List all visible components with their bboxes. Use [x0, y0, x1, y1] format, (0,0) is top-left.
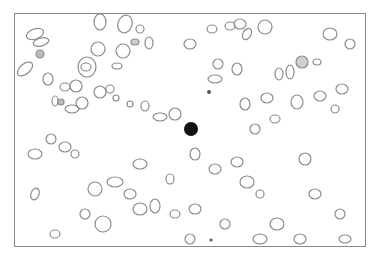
microscopy-image-frame — [14, 13, 366, 247]
dot — [210, 239, 213, 242]
dark-cell — [184, 122, 198, 136]
cell-field — [15, 14, 366, 247]
dot — [207, 90, 211, 94]
